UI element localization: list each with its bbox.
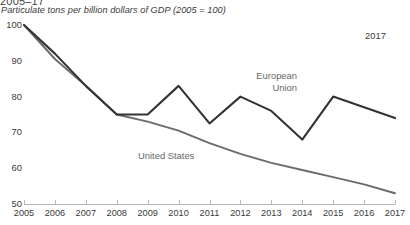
- series-line-united-states: [24, 25, 395, 193]
- axis-group: [24, 200, 395, 205]
- x-axis-ticks: [25, 200, 396, 205]
- series-line-european-union: [24, 25, 395, 140]
